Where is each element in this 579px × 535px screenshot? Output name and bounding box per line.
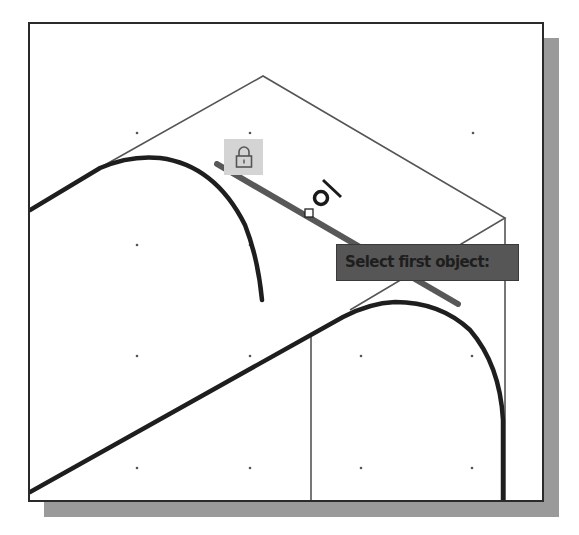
lock-icon: [234, 145, 254, 169]
highlighted-line[interactable]: [217, 164, 458, 304]
screen: Select first object:: [0, 0, 579, 535]
command-prompt-tooltip: Select first object:: [336, 244, 519, 281]
midpoint-square-icon: [305, 209, 313, 217]
tangent-snap-icon: [315, 180, 342, 205]
lock-badge[interactable]: [224, 139, 263, 175]
drawing-viewport[interactable]: Select first object:: [28, 22, 544, 502]
left-fillet-curve: [30, 157, 262, 300]
bottom-diagonal-and-right-fillet: [30, 302, 503, 502]
tooltip-text: Select first object:: [345, 253, 489, 271]
grid-dots: [136, 132, 475, 470]
object-geometry[interactable]: [30, 157, 503, 502]
construction-lines: [103, 76, 505, 502]
